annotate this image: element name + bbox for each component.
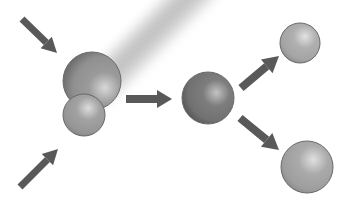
sphere-product-upper xyxy=(280,23,320,63)
sphere-product-lower xyxy=(281,141,333,193)
sphere-reactant-small xyxy=(63,94,105,136)
sphere-layer xyxy=(0,0,350,212)
fission-diagram xyxy=(0,0,350,212)
sphere-compound-nucleus xyxy=(182,72,234,124)
